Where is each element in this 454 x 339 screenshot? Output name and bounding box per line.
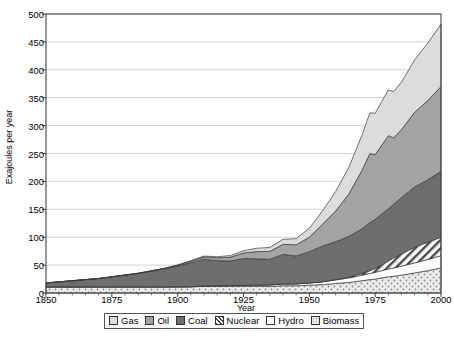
biomass-swatch: [311, 316, 320, 325]
y-tick-label: 50: [33, 260, 44, 271]
y-tick-label: 400: [28, 64, 44, 75]
y-axis-tick-labels: 050100150200250300350400450500: [0, 0, 44, 339]
legend-item-gas[interactable]: Gas: [109, 316, 138, 326]
y-tick-label: 450: [28, 36, 44, 47]
legend-item-biomass[interactable]: Biomass: [311, 316, 359, 326]
hydro-swatch: [266, 316, 275, 325]
stacked-area-plot: [0, 0, 454, 339]
chart-legend: GasOilCoalNuclearHydroBiomass: [104, 313, 364, 329]
legend-item-oil[interactable]: Oil: [145, 316, 169, 326]
legend-label: Biomass: [323, 316, 359, 326]
y-tick-label: 500: [28, 9, 44, 20]
y-tick-label: 100: [28, 232, 44, 243]
nuclear-swatch: [215, 316, 224, 325]
legend-label: Coal: [188, 316, 208, 326]
coal-swatch: [176, 316, 185, 325]
legend-label: Hydro: [278, 316, 303, 326]
y-tick-label: 150: [28, 204, 44, 215]
y-tick-label: 200: [28, 176, 44, 187]
gas-swatch: [109, 316, 118, 325]
chart-figure: Exajoules per year 050100150200250300350…: [0, 0, 454, 339]
legend-item-hydro[interactable]: Hydro: [266, 316, 303, 326]
y-tick-label: 300: [28, 120, 44, 131]
legend-label: Gas: [121, 316, 138, 326]
y-tick-label: 250: [28, 148, 44, 159]
area-bands: [46, 24, 441, 293]
legend-item-nuclear[interactable]: Nuclear: [215, 316, 260, 326]
y-tick-label: 350: [28, 92, 44, 103]
legend-item-coal[interactable]: Coal: [176, 316, 208, 326]
legend-label: Oil: [157, 316, 169, 326]
oil-swatch: [145, 316, 154, 325]
legend-label: Nuclear: [227, 316, 260, 326]
x-axis-label: Year: [46, 303, 446, 313]
